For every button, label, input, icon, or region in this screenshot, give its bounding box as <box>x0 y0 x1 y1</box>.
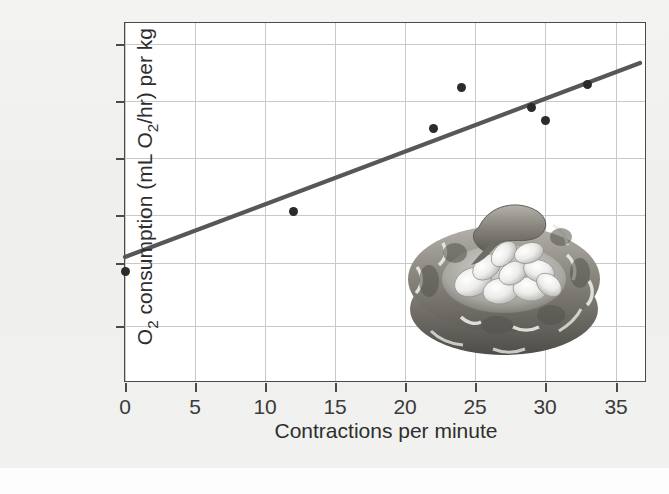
x-tick-25 <box>475 383 477 392</box>
data-point <box>541 116 550 125</box>
x-tick-label-10: 10 <box>245 395 285 419</box>
data-point <box>121 267 130 276</box>
x-tick-label-15: 15 <box>315 395 355 419</box>
y-axis-title-lead: O <box>133 329 156 345</box>
x-tick-5 <box>195 383 197 392</box>
x-tick-10 <box>265 383 267 392</box>
data-point <box>527 103 536 112</box>
data-point <box>289 207 298 216</box>
y-tick-80 <box>116 158 125 160</box>
plot-area: 120 100 80 60 40 20 0 5 10 15 20 25 30 3… <box>124 22 646 382</box>
y-tick-100 <box>116 101 125 103</box>
x-tick-15 <box>335 383 337 392</box>
data-point <box>583 80 592 89</box>
x-tick-label-5: 5 <box>175 395 215 419</box>
y-tick-40 <box>116 263 125 265</box>
y-axis-title: O2 consumption (mL O2/hr) per kg <box>133 0 160 397</box>
y-axis-title-mid: consumption (mL O <box>133 132 156 320</box>
y-axis-title-mid-sub: 2 <box>144 124 161 132</box>
x-tick-30 <box>545 383 547 392</box>
y-axis-title-tail: /hr) per kg <box>133 28 156 124</box>
x-tick-35 <box>616 383 618 392</box>
x-axis-title: Contractions per minute <box>125 419 647 443</box>
x-tick-label-25: 25 <box>455 395 495 419</box>
x-tick-label-35: 35 <box>596 395 636 419</box>
data-point <box>457 83 466 92</box>
x-tick-0 <box>125 383 127 392</box>
x-tick-label-30: 30 <box>525 395 565 419</box>
x-tick-label-0: 0 <box>105 395 145 419</box>
y-tick-120 <box>116 44 125 46</box>
y-tick-60 <box>116 215 125 217</box>
y-axis-title-lead-sub: 2 <box>144 320 161 328</box>
x-tick-20 <box>405 383 407 392</box>
y-tick-20 <box>116 326 125 328</box>
figure-container: 120 100 80 60 40 20 0 5 10 15 20 25 30 3… <box>0 0 669 494</box>
data-point <box>429 124 438 133</box>
trend-line <box>125 23 647 383</box>
x-tick-label-20: 20 <box>385 395 425 419</box>
scan-paper-margin <box>0 468 669 494</box>
